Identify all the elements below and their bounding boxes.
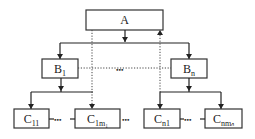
ellipsis-c-right: ••• [184, 116, 191, 124]
ellipsis-b-row: ••• [116, 66, 123, 74]
arrow-head-icon [186, 86, 192, 91]
node-cnmn-label: Cnmₙ [205, 113, 242, 128]
arrow-head-icon [89, 104, 95, 109]
arrow-head-icon [157, 104, 163, 109]
node-c11-label: C11 [14, 113, 49, 128]
arrow-head-icon [186, 54, 192, 59]
node-c1m1-label: C1m₁ [75, 113, 120, 128]
node-cn1-label: Cn1 [144, 113, 180, 128]
arrow-head-icon [157, 30, 163, 35]
node-bn-label: Bn [171, 63, 207, 78]
arrow-head-icon [122, 37, 128, 42]
arrow-head-icon [28, 104, 34, 109]
ellipsis-c-mid: ••• [122, 116, 129, 124]
ellipsis-c-left: ••• [54, 116, 61, 124]
node-a-label: A [86, 14, 163, 26]
arrow-head-icon [58, 86, 64, 91]
arrow-head-icon [218, 104, 224, 109]
node-b1-label: B1 [42, 63, 78, 78]
arrow-head-icon [57, 54, 63, 59]
